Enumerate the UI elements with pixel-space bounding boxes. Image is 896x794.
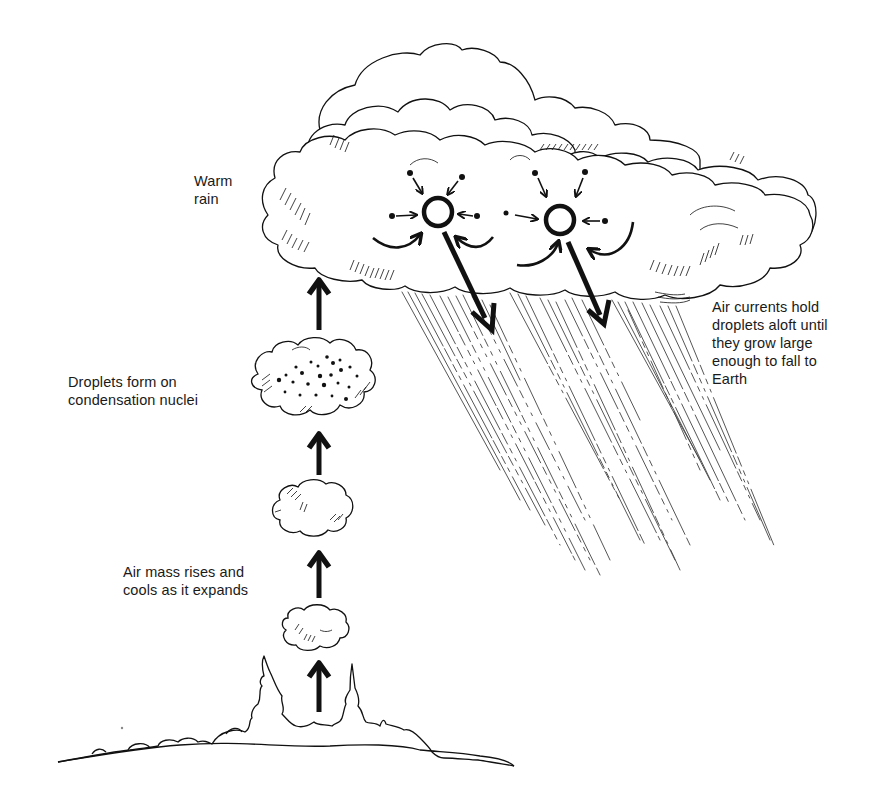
label-warm-rain: Warm rain (194, 172, 233, 208)
small-cloud-middle (273, 480, 353, 536)
label-line: Air mass rises and (123, 563, 248, 581)
ground-landscape (58, 656, 514, 766)
rising-arrow-4 (309, 663, 329, 712)
label-droplets-form: Droplets form on condensation nuclei (68, 373, 198, 409)
label-line: rain (194, 190, 233, 208)
label-line: cools as it expands (123, 581, 248, 599)
rising-arrow-2 (309, 434, 329, 475)
label-air-mass-rises: Air mass rises and cools as it expands (123, 563, 248, 599)
droplet-cloud (252, 338, 376, 415)
label-line: Warm (194, 172, 233, 190)
rising-arrow-1 (309, 280, 329, 330)
small-cloud-bottom (282, 605, 349, 651)
label-line: Earth (712, 370, 828, 388)
label-line: enough to fall to (712, 352, 828, 370)
ground-line (58, 743, 514, 766)
speck (121, 727, 123, 729)
rising-arrow-3 (309, 553, 329, 598)
label-line: they grow large (712, 334, 828, 352)
label-air-currents: Air currents hold droplets aloft until t… (712, 298, 828, 388)
label-line: droplets aloft until (712, 316, 828, 334)
label-line: Air currents hold (712, 298, 828, 316)
label-line: Droplets form on (68, 373, 198, 391)
label-line: condensation nuclei (68, 391, 198, 409)
